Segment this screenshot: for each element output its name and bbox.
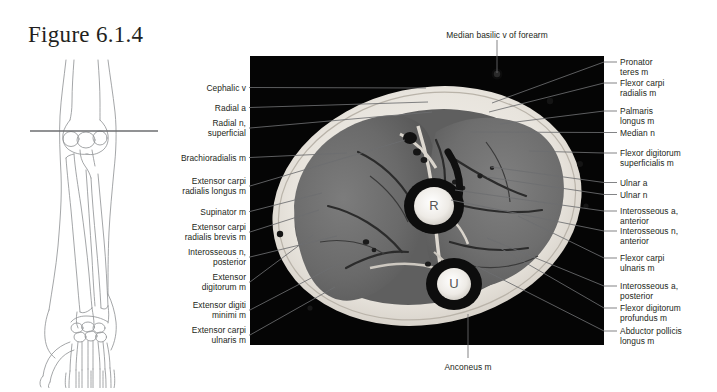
label-palmaris-longus-m: Palmaris longus m [620,106,715,126]
label-interosseous-n-anterior: Interosseous n, anterior [620,226,715,246]
label-flexor-digitorum-superficialis-m: Flexor digitorum superficialis m [620,148,715,168]
label-median-n: Median n [620,128,715,138]
label-radial-n-superficial: Radial n, superficial [151,118,246,138]
figure-title: Figure 6.1.4 [28,22,143,48]
label-abductor-pollicis-longus-m: Abductor pollicis longus m [620,326,715,346]
orientation-diagram [30,58,165,388]
label-supinator-m: Supinator m [151,207,246,217]
radius-marker-label: R [429,198,438,213]
label-extensor-carpi-ulnaris-m: Extensor carpi ulnaris m [151,325,246,345]
label-cephalic-v: Cephalic v [151,83,246,93]
ulna-marker-label: U [449,276,458,291]
label-pronator-teres-m: Pronator teres m [620,57,715,77]
label-extensor-digitorum-m: Extensor digitorum m [151,272,246,292]
figure-page: Figure 6.1.4 [0,0,717,392]
label-ulnar-a: Ulnar a [620,178,715,188]
mri-cross-section-panel: R U [250,56,604,345]
label-interosseous-a-posterior: Interosseous a, posterior [620,281,715,301]
forearm-skeleton-svg [30,58,165,388]
label-median-basilic-v-of-forearm: Median basilic v of forearm [427,30,567,40]
label-extensor-digiti-minimi-m: Extensor digiti minimi m [151,300,246,320]
label-interosseous-a-anterior: Interosseous a, anterior [620,206,715,226]
label-radial-a: Radial a [151,103,246,113]
label-ulnar-n: Ulnar n [620,190,715,200]
label-brachioradialis-m: Brachioradialis m [151,153,246,163]
mri-image: R U [250,56,604,345]
label-flexor-carpi-ulnaris-m: Flexor carpi ulnaris m [620,253,715,273]
label-flexor-carpi-radialis-m: Flexor carpi radialis m [620,78,715,98]
label-extensor-carpi-radialis-brevis-m: Extensor carpi radialis brevis m [151,222,246,242]
label-extensor-carpi-radialis-longus-m: Extensor carpi radialis longus m [151,176,246,196]
label-interosseous-n-posterior: Interosseous n, posterior [151,247,246,267]
label-flexor-digitorum-profundus-m: Flexor digitorum profundus m [620,303,715,323]
label-anconeus-m: Anconeus m [398,362,538,372]
